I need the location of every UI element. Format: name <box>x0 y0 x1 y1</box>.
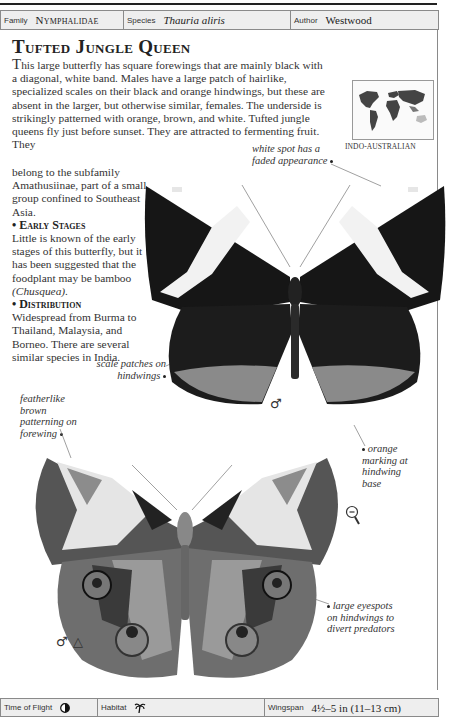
habitat-label: Habitat <box>101 703 126 712</box>
palm-tree-icon <box>134 702 146 714</box>
male-symbol: ♂ <box>270 396 282 411</box>
half-moon-dusk-icon <box>60 703 70 713</box>
butterfly-underside-image <box>22 450 352 690</box>
time-of-flight-label: Time of Flight <box>4 703 52 712</box>
male-symbol: ♂ <box>56 634 68 649</box>
zoom-out-magnifier-icon <box>345 505 361 527</box>
wingspan-cell: Wingspan 4½–5 in (11–13 cm) <box>265 699 438 716</box>
footer-bar: Time of Flight Habitat Wingspan 4½–5 in … <box>0 698 439 717</box>
wingspan-label: Wingspan <box>268 703 304 712</box>
habitat-cell: Habitat <box>98 699 265 716</box>
triangle-symbol: △ <box>73 634 83 649</box>
butterfly-upperside-image <box>142 182 447 412</box>
time-of-flight-cell: Time of Flight <box>1 699 98 716</box>
wingspan-value: 4½–5 in (11–13 cm) <box>312 702 401 714</box>
